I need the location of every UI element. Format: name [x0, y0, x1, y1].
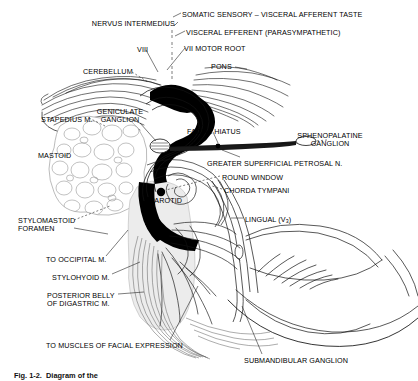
label-somatic-sensory: SOMATIC SENSORY – VISCERAL AFFERENT TAST…: [182, 11, 362, 19]
label-posterior-belly-digastric: POSTERIOR BELLY OF DIGASTRIC M.: [47, 292, 115, 309]
label-round-window: ROUND WINDOW: [222, 174, 283, 182]
label-stylohyoid-m: STYLOHYOID M.: [52, 274, 110, 282]
geniculate-ganglion-structure: [150, 139, 170, 153]
label-cerebellum: CEREBELLUM: [83, 68, 133, 76]
label-vii-motor-root: VII MOTOR ROOT: [184, 45, 246, 53]
figure-caption: Fig. 1-2. Diagram of the: [14, 371, 98, 380]
label-mastoid: MASTOID: [38, 152, 71, 160]
label-geniculate-ganglion: GENICULATE GANGLION: [97, 108, 143, 125]
label-chorda-tympani: CHORDA TYMPANI: [224, 187, 289, 195]
label-lingual-v3: LINGUAL (V3): [245, 216, 291, 224]
anatomical-illustration: [0, 0, 418, 381]
mandible-and-tongue-structure: [228, 224, 418, 346]
round-window-structure: [157, 188, 165, 196]
label-visceral-efferent: VISCERAL EFFERENT (PARASYMPATHETIC): [186, 29, 340, 37]
facial-nerve-figure: SOMATIC SENSORY – VISCERAL AFFERENT TAST…: [0, 0, 418, 381]
label-stapedius-m: STAPEDIUS M.: [41, 116, 92, 124]
label-viii: VIII: [137, 46, 148, 54]
chorda-tympani-and-lingual-nerve-structure: [207, 180, 258, 322]
label-submandibular-ganglion: SUBMANDIBULAR GANGLION: [244, 357, 348, 365]
label-greater-superficial-petrosal-n: GREATER SUPERFICIAL PETROSAL N.: [207, 160, 342, 168]
label-pons: PONS: [211, 63, 232, 71]
label-to-muscles-facial-expression: TO MUSCLES OF FACIAL EXPRESSION: [46, 342, 183, 350]
label-sphenopalatine-ganglion: SPHENOPALATINE GANGLION: [297, 132, 362, 149]
label-facial-hiatus: FACIAL HIATUS: [187, 128, 241, 136]
label-stylomastoid-foramen: STYLOMASTOID FORAMEN: [18, 217, 75, 234]
label-parotid: PAROTID: [150, 197, 182, 205]
label-to-occipital-m: TO OCCIPITAL M.: [46, 256, 106, 264]
label-nervus-intermedius: NERVUS INTERMEDIUS: [92, 20, 175, 28]
